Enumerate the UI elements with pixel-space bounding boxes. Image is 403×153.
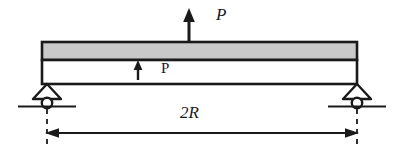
beam-assembly (42, 42, 357, 84)
load-arrow-top (183, 8, 195, 42)
beam-web-white (42, 60, 357, 84)
load-arrow-top-head (183, 8, 195, 22)
beam-diagram-canvas (0, 0, 403, 153)
span-dimension-line (45, 128, 359, 138)
load-label-top: P (216, 6, 226, 23)
beam-diagram: P P 2R (0, 0, 403, 153)
span-dimension-label: 2R (180, 104, 199, 121)
support-left (18, 84, 76, 148)
beam-flange-gray (42, 42, 357, 60)
load-label-inner: P (161, 61, 169, 76)
support-right (328, 84, 386, 148)
